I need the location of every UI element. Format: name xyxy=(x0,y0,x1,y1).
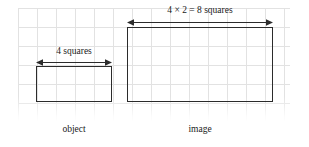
image-dimension-arrow xyxy=(127,18,273,27)
object-dimension-label: 4 squares xyxy=(36,46,112,57)
object-caption: object xyxy=(36,123,112,135)
image-dimension-label: 4 × 2 = 8 squares xyxy=(127,5,273,16)
image-caption: image xyxy=(127,123,273,135)
image-rectangle xyxy=(127,27,273,102)
scale-diagram-figure: 4 squares object 4 × 2 = 8 squares image xyxy=(0,0,309,147)
object-rectangle xyxy=(36,66,112,102)
